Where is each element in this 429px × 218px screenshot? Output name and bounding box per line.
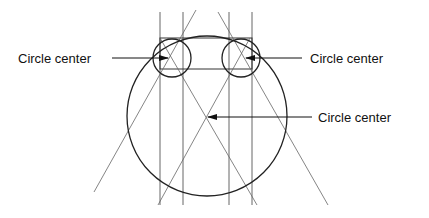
label-circle-center-right: Circle center: [310, 51, 384, 66]
label-circle-center-main: Circle center: [318, 110, 392, 125]
diagonal-lines: [94, 10, 328, 205]
label-circle-center-left: Circle center: [18, 51, 92, 66]
construction-diagram: Circle center Circle center Circle cente…: [0, 0, 429, 218]
